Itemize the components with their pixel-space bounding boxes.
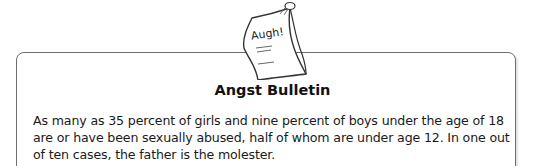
bulletin-title: Angst Bulletin [0,82,545,98]
pinned-note-icon: Augh! [238,0,310,80]
bulletin-body: As many as 35 percent of girls and nine … [33,112,513,163]
